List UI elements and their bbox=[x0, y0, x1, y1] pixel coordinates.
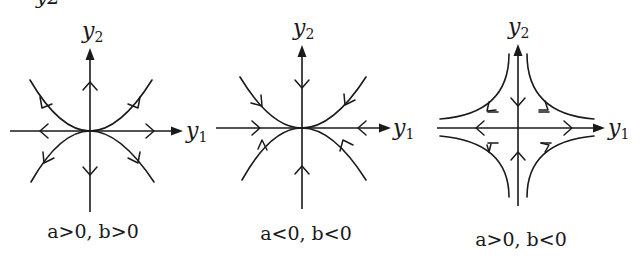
diagram-node-source: y2 y1 a>0, b>0 bbox=[10, 18, 207, 242]
caption: a>0, b<0 bbox=[475, 228, 567, 250]
y1-axis-arrowhead-icon bbox=[593, 124, 605, 133]
y2-axis-arrowhead-icon bbox=[514, 44, 523, 56]
arrow-lower-right-icon bbox=[128, 152, 140, 163]
lower-trajectory bbox=[242, 128, 366, 180]
diagram-node-sink: y2 y1 a<0, b<0 bbox=[216, 15, 414, 244]
y2-axis-arrowhead-icon bbox=[298, 45, 307, 57]
upper-trajectory bbox=[240, 77, 366, 128]
arrow-upper-left-icon bbox=[487, 102, 496, 111]
y1-label: y1 bbox=[185, 118, 207, 145]
y1-axis-arrowhead-icon bbox=[171, 127, 183, 136]
y2-label: y2 bbox=[292, 15, 314, 42]
lower-left-trajectory bbox=[440, 136, 509, 197]
upper-right-trajectory bbox=[527, 54, 594, 119]
arrow-lower-left-icon bbox=[258, 140, 267, 150]
y2-label: y2 bbox=[81, 18, 103, 45]
lower-trajectory bbox=[31, 131, 154, 182]
lower-right-trajectory bbox=[527, 136, 594, 197]
y1-axis-arrowhead-icon bbox=[379, 124, 391, 133]
y1-label: y1 bbox=[392, 115, 414, 142]
y1-label: y1 bbox=[607, 115, 629, 142]
diagram-saddle: y2 y1 a>0, b<0 bbox=[437, 14, 629, 250]
caption: a>0, b>0 bbox=[47, 220, 139, 242]
y2-axis-arrowhead-icon bbox=[86, 48, 95, 60]
top-cut-label: y2 bbox=[35, 0, 60, 9]
y2-label: y2 bbox=[507, 14, 529, 41]
upper-left-trajectory bbox=[440, 54, 509, 119]
phase-portraits-figure: y2 y2 y1 a>0, b>0 bbox=[0, 0, 641, 259]
caption: a<0, b<0 bbox=[260, 222, 352, 244]
